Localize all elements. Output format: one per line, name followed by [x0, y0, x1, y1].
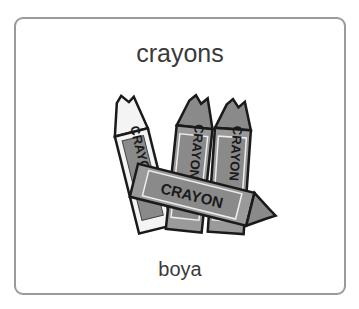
crayons-illustration-icon: CRAYON CRAYON CRAYON CRAYON	[102, 91, 282, 241]
word-card[interactable]: crayons CRAYON CRAYON CRAYON	[14, 17, 346, 295]
card-translation: boya	[16, 259, 344, 279]
card-title: crayons	[16, 41, 344, 66]
